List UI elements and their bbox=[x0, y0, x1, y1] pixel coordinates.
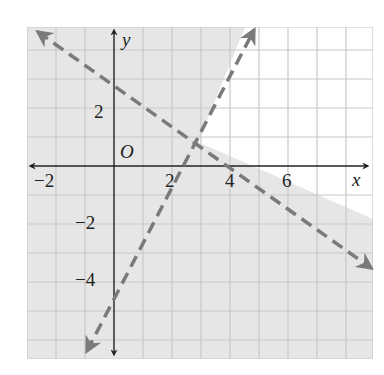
x-axis-label: x bbox=[351, 169, 361, 190]
y-tick-label: −2 bbox=[75, 212, 95, 233]
shaded-region bbox=[27, 27, 373, 359]
chart: y x O −2 2 4 6 2 −2 −4 bbox=[0, 0, 384, 375]
y-tick-label: −4 bbox=[75, 269, 96, 290]
x-tick-label: 2 bbox=[165, 170, 175, 191]
x-tick-label: 6 bbox=[282, 170, 292, 191]
y-axis-label: y bbox=[120, 29, 131, 50]
y-tick-label: 2 bbox=[94, 101, 104, 122]
x-tick-label: −2 bbox=[34, 170, 54, 191]
origin-label: O bbox=[120, 141, 134, 162]
x-tick-label: 4 bbox=[225, 170, 235, 191]
